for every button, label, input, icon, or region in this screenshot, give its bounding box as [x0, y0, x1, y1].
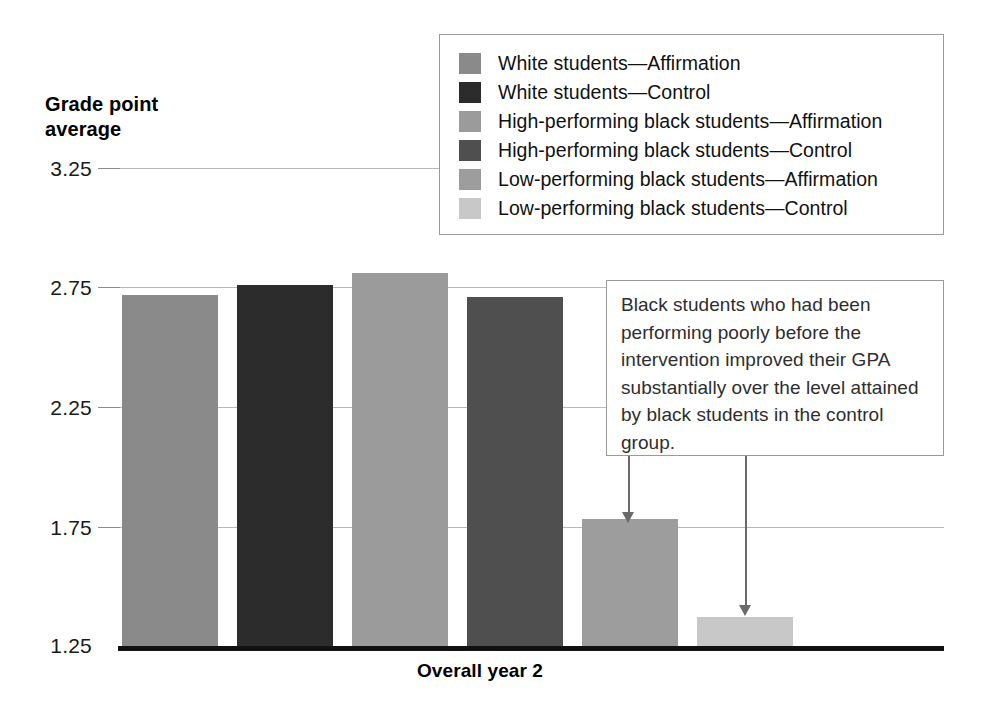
legend-item-label: White students—Affirmation: [498, 52, 741, 75]
y-axis-title-line2: average: [45, 117, 158, 142]
legend-swatch-icon: [459, 53, 481, 74]
y-tick-label-1-75: 1.75: [26, 516, 92, 540]
bar-low-black-affirmation: [582, 519, 678, 646]
legend-item-label: High-performing black students—Control: [498, 139, 852, 162]
legend-item: Low-performing black students—Control: [459, 194, 943, 223]
legend-item: High-performing black students—Affirmati…: [459, 107, 943, 136]
legend-item: High-performing black students—Control: [459, 136, 943, 165]
y-tick-label-2-25: 2.25: [26, 396, 92, 420]
x-axis-baseline: [118, 646, 944, 651]
y-axis-title-line1: Grade point: [45, 92, 158, 117]
legend-item-label: White students—Control: [498, 81, 710, 104]
y-axis-title: Grade point average: [45, 92, 158, 142]
bar-white-control: [237, 285, 333, 646]
legend-swatch-icon: [459, 169, 481, 190]
legend-item-label: High-performing black students—Affirmati…: [498, 110, 882, 133]
annotation-arrow-head-left: [622, 512, 634, 523]
legend-swatch-icon: [459, 111, 481, 132]
legend-item: White students—Affirmation: [459, 49, 943, 78]
chart-legend: White students—Affirmation White student…: [439, 34, 944, 235]
bar-low-black-control: [697, 617, 793, 646]
tick-stub-1-75: [98, 527, 120, 528]
y-tick-label-2-75: 2.75: [26, 276, 92, 300]
y-tick-label-1-25: 1.25: [26, 634, 92, 658]
legend-item-label: Low-performing black students—Affirmatio…: [498, 168, 878, 191]
annotation-arrow-line-left: [628, 456, 630, 515]
tick-stub-2-25: [98, 407, 120, 408]
bar-high-black-affirmation: [352, 273, 448, 646]
legend-swatch-icon: [459, 140, 481, 161]
legend-item: White students—Control: [459, 78, 943, 107]
legend-item: Low-performing black students—Affirmatio…: [459, 165, 943, 194]
y-tick-label-3-25: 3.25: [26, 157, 92, 181]
annotation-text: Black students who had been performing p…: [621, 291, 931, 456]
annotation-callout: Black students who had been performing p…: [606, 280, 944, 456]
tick-stub-3-25: [98, 168, 120, 169]
x-axis-label: Overall year 2: [340, 660, 620, 682]
annotation-arrow-line-right: [745, 456, 747, 608]
legend-swatch-icon: [459, 198, 481, 219]
bar-high-black-control: [467, 297, 563, 646]
tick-stub-2-75: [98, 287, 120, 288]
bar-white-affirmation: [122, 295, 218, 646]
legend-swatch-icon: [459, 82, 481, 103]
legend-item-label: Low-performing black students—Control: [498, 197, 848, 220]
annotation-arrow-head-right: [739, 605, 751, 616]
bar-chart: Grade point average 3.25 2.75 2.25 1.75 …: [0, 0, 983, 718]
